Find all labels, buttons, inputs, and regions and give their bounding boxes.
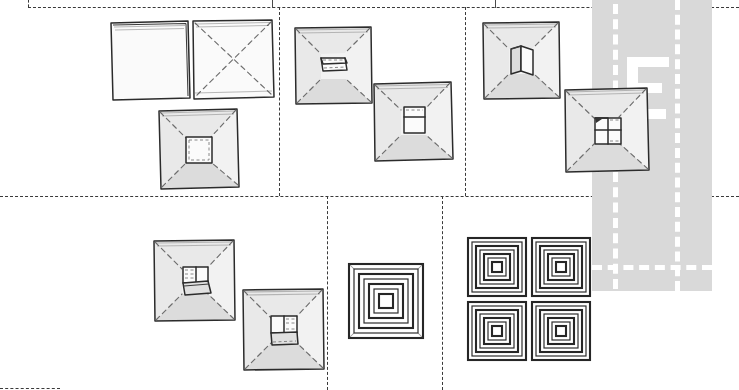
figure-spiral-quad [465,235,593,363]
figure-flat-square-blank [108,18,194,104]
figure-pyramid-tab-flat-a [292,24,376,108]
figure-pyramid-tab-folded-b [562,85,652,175]
figure-pyramid-tab-upright-a [371,79,457,165]
lane-line-horizontal-1 [592,265,712,270]
grid-tick-a [272,0,273,8]
e-glyph-arm-top [638,57,669,67]
figure-spiral-single [346,261,426,341]
lane-line-vertical-2 [675,0,680,291]
grid-h-bottom [0,388,60,389]
grid-v-left [28,0,29,7]
storyboard-canvas [0,0,739,390]
figure-pyramid-tab-folded-d [240,286,328,374]
figure-pyramid-tab-folded-c [151,237,239,325]
figure-flat-square-diagonals [190,17,278,103]
figure-pyramid-tab-upright-b [480,19,564,103]
grid-v-row2-b [442,196,443,390]
figure-pyramid-open-center [155,105,243,193]
grid-tick-b [495,0,496,8]
grid-v-row1-a [279,7,280,196]
grid-v-row1-b [465,7,466,196]
